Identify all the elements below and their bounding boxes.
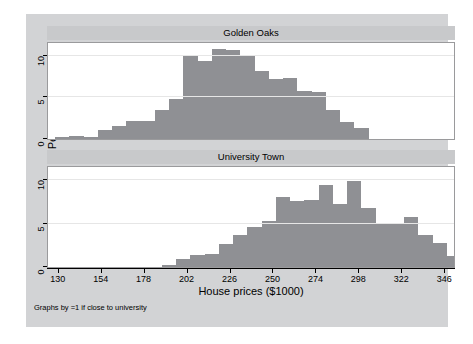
histogram-bar bbox=[340, 122, 354, 139]
histogram-bar bbox=[312, 92, 326, 139]
x-axis-tick-label: 298 bbox=[343, 274, 373, 284]
histogram-bar bbox=[304, 200, 318, 267]
histogram-bar bbox=[326, 110, 340, 139]
y-axis-tick-label: 5 bbox=[36, 95, 46, 109]
x-axis-tick bbox=[444, 269, 445, 273]
histogram-bar bbox=[55, 137, 69, 139]
histogram-bar bbox=[376, 224, 390, 267]
histogram-figure: Percent Golden Oaks 0510 University Town… bbox=[0, 0, 473, 344]
bars-golden-oaks bbox=[48, 43, 454, 139]
histogram-bar bbox=[169, 99, 183, 139]
histogram-bar bbox=[205, 254, 219, 267]
x-axis-tick bbox=[58, 269, 59, 273]
y-axis-tick-label: 10 bbox=[36, 54, 46, 68]
x-axis-tick-label: 250 bbox=[257, 274, 287, 284]
plot-area-university-town bbox=[47, 166, 455, 268]
histogram-bar bbox=[219, 244, 233, 267]
x-axis: 130154178202226250274298322346 bbox=[47, 268, 455, 269]
histogram-bar bbox=[276, 197, 290, 267]
x-axis-tick bbox=[358, 269, 359, 273]
x-axis-tick-label: 202 bbox=[172, 274, 202, 284]
histogram-bar bbox=[361, 208, 375, 267]
footnote: Graphs by =1 if close to university bbox=[34, 303, 147, 312]
panel-title-university-town: University Town bbox=[47, 150, 455, 164]
histogram-bar bbox=[233, 235, 247, 267]
y-axis-tick-label: 5 bbox=[36, 222, 46, 236]
x-axis-title: House prices ($1000) bbox=[47, 285, 455, 297]
histogram-bar bbox=[240, 56, 254, 139]
histogram-bar bbox=[190, 255, 204, 267]
x-axis-tick bbox=[272, 269, 273, 273]
histogram-bar bbox=[212, 49, 226, 139]
histogram-bar bbox=[162, 265, 176, 267]
histogram-bar bbox=[390, 223, 404, 267]
y-axis-tick-label: 0 bbox=[36, 137, 46, 151]
panel-title-golden-oaks: Golden Oaks bbox=[47, 26, 455, 40]
histogram-bar bbox=[297, 91, 311, 139]
histogram-bar bbox=[404, 217, 418, 267]
histogram-bar bbox=[418, 235, 432, 267]
histogram-bar bbox=[347, 181, 361, 267]
histogram-bar bbox=[141, 121, 155, 139]
x-axis-tick-label: 346 bbox=[429, 274, 459, 284]
x-axis-tick-label: 178 bbox=[129, 274, 159, 284]
x-axis-tick bbox=[187, 269, 188, 273]
y-axis-golden-oaks: 0510 bbox=[35, 42, 47, 140]
plot-area-golden-oaks bbox=[47, 42, 455, 140]
histogram-bar bbox=[226, 50, 240, 139]
x-axis-tick bbox=[401, 269, 402, 273]
histogram-bar bbox=[262, 221, 276, 267]
histogram-bar bbox=[112, 126, 126, 139]
histogram-bar bbox=[269, 79, 283, 139]
histogram-bar bbox=[84, 137, 98, 140]
x-axis-tick-label: 130 bbox=[43, 274, 73, 284]
gridline bbox=[48, 55, 454, 56]
gridline bbox=[48, 96, 454, 97]
histogram-bar bbox=[283, 78, 297, 139]
gridline bbox=[48, 223, 454, 224]
histogram-bar bbox=[255, 71, 269, 139]
x-axis-tick bbox=[315, 269, 316, 273]
histogram-bar bbox=[354, 128, 368, 139]
histogram-bar bbox=[333, 204, 347, 267]
histogram-bar bbox=[198, 61, 212, 139]
x-axis-tick-label: 154 bbox=[86, 274, 116, 284]
histogram-bar bbox=[126, 121, 140, 139]
x-axis-tick-label: 322 bbox=[386, 274, 416, 284]
x-axis-tick bbox=[230, 269, 231, 273]
x-axis-tick-label: 274 bbox=[300, 274, 330, 284]
bars-university-town bbox=[48, 167, 454, 267]
x-axis-tick bbox=[144, 269, 145, 273]
histogram-bar bbox=[98, 130, 112, 139]
x-axis-tick bbox=[101, 269, 102, 273]
histogram-bar bbox=[247, 227, 261, 267]
histogram-bar bbox=[155, 110, 169, 139]
histogram-bar bbox=[440, 256, 454, 267]
y-axis-tick-label: 10 bbox=[36, 178, 46, 192]
y-axis-university-town: 0510 bbox=[35, 166, 47, 268]
histogram-bar bbox=[69, 136, 83, 139]
gridline bbox=[48, 179, 454, 180]
histogram-bar bbox=[319, 185, 333, 267]
histogram-bar bbox=[290, 201, 304, 267]
x-axis-line bbox=[47, 268, 455, 269]
x-axis-tick-label: 226 bbox=[215, 274, 245, 284]
histogram-bar bbox=[176, 259, 190, 267]
